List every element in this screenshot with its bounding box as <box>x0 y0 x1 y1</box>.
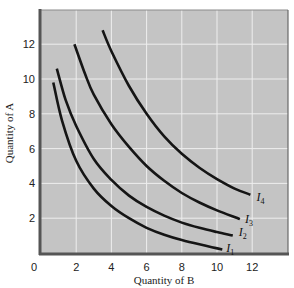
x-tick-label: 8 <box>179 261 185 273</box>
y-tick-label: 6 <box>29 143 35 155</box>
y-tick-label: 4 <box>29 177 35 189</box>
x-axis-label: Quantity of B <box>134 274 195 286</box>
y-tick-label: 2 <box>29 212 35 224</box>
x-tick-label: 2 <box>73 261 79 273</box>
y-tick-label: 12 <box>23 38 35 50</box>
y-tick-label: 8 <box>29 108 35 120</box>
x-axis-ticks: 024681012 <box>31 261 258 273</box>
y-tick-label: 10 <box>23 73 35 85</box>
x-tick-label: 10 <box>211 261 223 273</box>
x-tick-label: 4 <box>108 261 114 273</box>
x-tick-label: 6 <box>144 261 150 273</box>
y-axis-ticks: 24681012 <box>23 38 35 224</box>
x-tick-label: 12 <box>246 261 258 273</box>
x-tick-label: 0 <box>31 261 37 273</box>
y-axis-label: Quantity of A <box>3 103 15 164</box>
indifference-curve-chart: 024681012 24681012 I1I2I3I4 Quantity of … <box>0 0 294 288</box>
plot-area <box>40 10 288 254</box>
